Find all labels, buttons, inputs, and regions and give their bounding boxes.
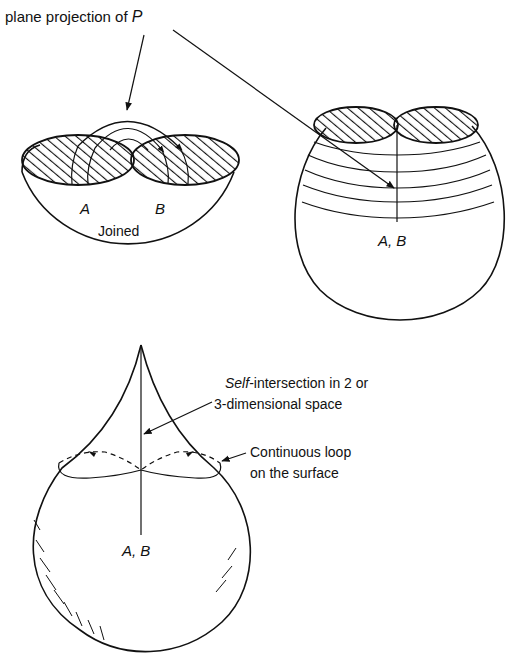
label-self-intersection-1: Self-intersection in 2 or bbox=[225, 375, 369, 391]
pointer-to-joined bbox=[127, 35, 144, 110]
figure-hemisphere-joined: A B Joined bbox=[22, 121, 239, 243]
loop-solid bbox=[59, 463, 221, 478]
shading bbox=[34, 520, 236, 640]
label-loop-2: on the surface bbox=[250, 465, 339, 481]
label-loop-1: Continuous loop bbox=[250, 444, 351, 460]
pointer-loop bbox=[222, 453, 246, 461]
label-ab-top: A, B bbox=[377, 232, 406, 249]
cap-left bbox=[314, 107, 398, 143]
label-b: B bbox=[155, 200, 165, 217]
cap-right bbox=[394, 107, 478, 143]
figure-pinched-sphere: Self-intersection in 2 or 3-dimensional … bbox=[33, 345, 368, 652]
label-self-intersection-2: 3-dimensional space bbox=[214, 396, 343, 412]
title-label: plane projection of P bbox=[5, 8, 143, 25]
label-a: A bbox=[79, 200, 90, 217]
loop-dashed bbox=[59, 452, 220, 470]
label-ab-bottom: A, B bbox=[121, 542, 150, 559]
diagram-canvas: plane projection of P A B Joined bbox=[0, 0, 525, 662]
label-joined: Joined bbox=[98, 223, 139, 239]
